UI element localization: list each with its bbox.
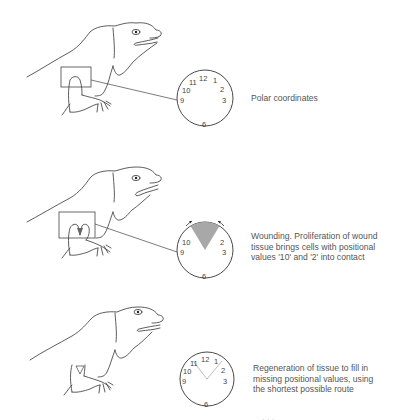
wounded-clock: 2 3 6 9 10 bbox=[177, 221, 233, 281]
panel-wounding: 2 3 6 9 10 Wounding. Proliferation of wo… bbox=[0, 140, 410, 280]
svg-text:2: 2 bbox=[220, 85, 224, 94]
svg-text:12: 12 bbox=[199, 74, 207, 83]
svg-text:2: 2 bbox=[220, 238, 224, 247]
svg-text:3: 3 bbox=[223, 377, 227, 386]
svg-text:6: 6 bbox=[204, 400, 208, 409]
panel-polar-coordinates: 12 1 2 3 6 9 10 11 Polar coordinates bbox=[0, 0, 410, 140]
caption-wounding: Wounding. Proliferation of wound tissue … bbox=[251, 231, 377, 263]
caption-line: Regeneration of tissue to fill in bbox=[253, 363, 373, 374]
svg-text:9: 9 bbox=[182, 377, 186, 386]
svg-text:11: 11 bbox=[190, 359, 198, 368]
caption-line: the shortest possible route bbox=[253, 384, 373, 395]
pointer-line bbox=[95, 224, 177, 252]
caption-regeneration: Regeneration of tissue to fill in missin… bbox=[253, 363, 373, 395]
panel-regeneration: 12 1 2 3 6 9 10 11 Regeneration of tissu… bbox=[0, 280, 410, 420]
svg-text:10: 10 bbox=[182, 86, 190, 95]
svg-text:11: 11 bbox=[189, 78, 197, 87]
pointer-line bbox=[91, 80, 177, 100]
caption-polar-coordinates: Polar coordinates bbox=[251, 93, 318, 104]
caption-line: missing positional values, using bbox=[253, 374, 373, 385]
svg-text:3: 3 bbox=[222, 96, 226, 105]
caption-line: tissue brings cells with positional bbox=[251, 242, 377, 253]
svg-text:3: 3 bbox=[222, 248, 226, 257]
eye-icon bbox=[135, 177, 137, 179]
regenerated-triangle bbox=[76, 366, 84, 374]
svg-text:6: 6 bbox=[202, 120, 206, 129]
cutoff-text: · · · bbox=[262, 413, 410, 420]
polar-coordinate-clock: 12 1 2 3 6 9 10 11 bbox=[177, 70, 233, 129]
svg-text:1: 1 bbox=[213, 76, 217, 85]
caption-line: Wounding. Proliferation of wound bbox=[251, 231, 377, 242]
caption-line: values '10' and '2' into contact bbox=[251, 252, 377, 263]
svg-text:12: 12 bbox=[201, 355, 209, 364]
svg-text:9: 9 bbox=[180, 96, 184, 105]
eye-icon bbox=[135, 31, 137, 33]
svg-text:2: 2 bbox=[221, 366, 225, 375]
wound-notch bbox=[77, 228, 83, 236]
svg-text:1: 1 bbox=[214, 357, 218, 366]
svg-text:10: 10 bbox=[182, 238, 190, 247]
lizard-regenerated-illustration: 12 1 2 3 6 9 10 11 bbox=[0, 280, 410, 420]
eye-icon bbox=[137, 311, 139, 313]
regenerated-clock: 12 1 2 3 6 9 10 11 bbox=[180, 352, 234, 409]
lizard-intact-illustration: 12 1 2 3 6 9 10 11 bbox=[0, 0, 410, 140]
svg-text:9: 9 bbox=[180, 248, 184, 257]
svg-text:10: 10 bbox=[183, 367, 191, 376]
